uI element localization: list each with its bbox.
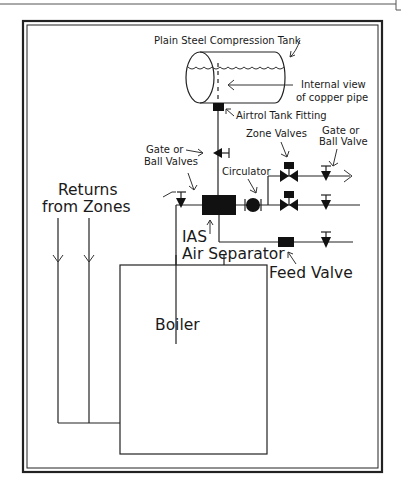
water-level — [188, 67, 284, 69]
ias-label: IAS — [182, 228, 207, 246]
returns-label-2: from Zones — [42, 198, 131, 216]
zone-valve-1 — [280, 162, 298, 182]
circulator-arrow — [248, 179, 257, 193]
boiler-label: Boiler — [155, 316, 200, 334]
feed-valve-label: Feed Valve — [269, 264, 353, 282]
zone-valves-arrow — [281, 142, 289, 157]
gate-ball-valves-arrow-1 — [186, 149, 203, 156]
gate-ball-valves-label-2: Ball Valves — [144, 156, 198, 167]
zone-valves-label: Zone Valves — [246, 128, 307, 139]
gate-valve-zone-2 — [321, 195, 331, 210]
gate-valve-feed — [321, 232, 331, 248]
boiler-piping-diagram: Plain Steel Compression Tank Internal vi… — [0, 0, 401, 493]
feed-valve — [278, 237, 294, 247]
tank-label: Plain Steel Compression Tank — [154, 35, 301, 46]
compression-tank — [186, 52, 285, 103]
boiler — [120, 265, 267, 454]
airtrol-fitting — [213, 103, 224, 111]
gate-valve-tank-line — [213, 148, 229, 158]
gate-ball-valves-label-1: Gate or — [146, 144, 184, 155]
return-pipes — [53, 218, 120, 423]
gate-valve-supply — [176, 192, 186, 208]
returns-label-1: Returns — [58, 181, 118, 199]
circulator-pump — [245, 198, 261, 212]
gate-ball-valves-arrow-2 — [188, 173, 197, 190]
gate-ball-valve-arrow — [329, 149, 338, 166]
ias-air-separator — [202, 195, 236, 215]
page-header-rule — [0, 0, 401, 10]
airtrol-label: Airtrol Tank Fitting — [236, 110, 327, 121]
internal-view-label-2: of copper pipe — [296, 92, 368, 103]
zone-valve-2 — [280, 191, 298, 211]
gate-valve-supply-handle — [163, 192, 176, 197]
gate-ball-valve-label-2: Ball Valve — [319, 136, 368, 147]
internal-view-arrow — [228, 80, 293, 90]
internal-view-label-1: Internal view — [301, 79, 366, 90]
airtrol-arrow — [226, 109, 234, 116]
gate-ball-valve-label-1: Gate or — [322, 125, 360, 136]
ias-arrow — [207, 220, 213, 234]
air-separator-label: Air Separator — [182, 245, 285, 263]
gate-valve-zone-1 — [321, 166, 331, 181]
feed-valve-arrow — [288, 252, 296, 264]
circulator-label: Circulator — [222, 166, 271, 177]
